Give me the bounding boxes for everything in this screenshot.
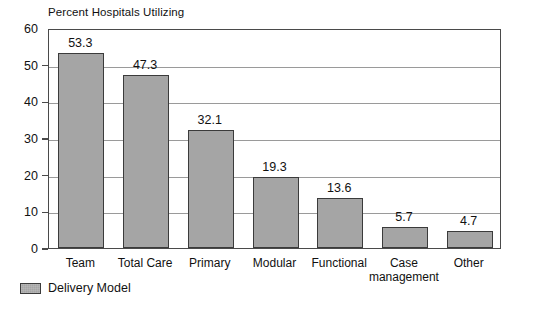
bar-value-label: 4.7 <box>460 214 477 228</box>
x-tick-label: Functional <box>312 257 367 271</box>
bar-value-label: 13.6 <box>327 181 351 195</box>
x-tick-label: Casemanagement <box>369 257 439 284</box>
bar-value-label: 5.7 <box>395 210 412 224</box>
gridline <box>49 140 500 141</box>
y-tick-label: 0 <box>0 242 38 256</box>
x-tick-label: Modular <box>253 257 296 271</box>
x-tick-label: Primary <box>189 257 230 271</box>
y-tick-label: 20 <box>0 169 38 183</box>
x-tick-label-line: Team <box>66 257 95 271</box>
bar-value-label: 53.3 <box>68 36 92 50</box>
bar-chart: Percent Hospitals Utilizing 010203040506… <box>0 0 536 311</box>
gridline <box>49 103 500 104</box>
legend-item-label: Delivery Model <box>48 281 131 295</box>
x-tick-label-line: Total Care <box>118 257 173 271</box>
y-tick-label: 50 <box>0 59 38 73</box>
y-tick-label: 40 <box>0 95 38 109</box>
legend-swatch-icon <box>20 283 41 294</box>
bar[interactable] <box>123 75 169 248</box>
bar-value-label: 19.3 <box>262 160 286 174</box>
x-tick-label: Other <box>454 257 484 271</box>
y-tick-label: 60 <box>0 22 38 36</box>
y-axis: 0102030405060 <box>0 0 44 311</box>
legend: Delivery Model <box>20 281 131 295</box>
x-tick-label-line: management <box>369 271 439 285</box>
x-tick-label: Total Care <box>118 257 173 271</box>
y-tick-label: 30 <box>0 132 38 146</box>
x-tick-label-line: Modular <box>253 257 296 271</box>
plot-area <box>48 29 501 249</box>
x-tick-label-line: Functional <box>312 257 367 271</box>
x-tick-label-line: Case <box>369 257 439 271</box>
x-tick-label-line: Other <box>454 257 484 271</box>
bar[interactable] <box>382 227 428 248</box>
bar[interactable] <box>447 231 493 248</box>
y-tick-label: 10 <box>0 205 38 219</box>
bar[interactable] <box>317 198 363 248</box>
bar[interactable] <box>253 177 299 248</box>
bar[interactable] <box>58 53 104 248</box>
bar-value-label: 47.3 <box>133 58 157 72</box>
gridline <box>49 67 500 68</box>
bar-value-label: 32.1 <box>198 113 222 127</box>
bar[interactable] <box>188 130 234 248</box>
x-tick-label-line: Primary <box>189 257 230 271</box>
chart-title: Percent Hospitals Utilizing <box>48 6 184 18</box>
x-tick-label: Team <box>66 257 95 271</box>
